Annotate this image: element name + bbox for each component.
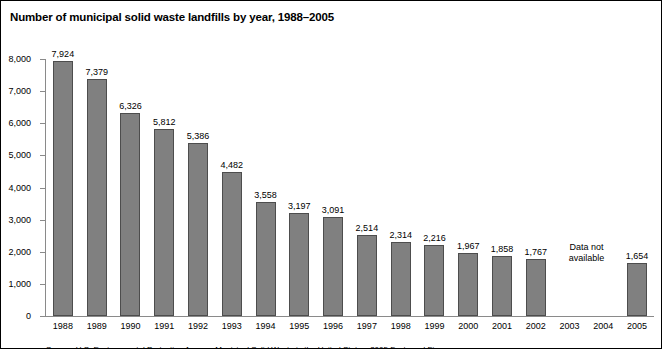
y-axis-tick [40, 123, 45, 124]
bar[interactable] [458, 253, 478, 316]
bar-value-label: 5,386 [187, 131, 210, 141]
x-axis-tick-label: 1997 [357, 321, 377, 331]
bar-value-label: 3,091 [322, 205, 345, 215]
y-axis-tick-label: 4,000 [8, 183, 31, 193]
bar-slot: 3,197 [282, 59, 316, 316]
x-axis-tick-label: 2005 [627, 321, 647, 331]
x-axis-tick-label: 1996 [323, 321, 343, 331]
x-axis-tick-label: 1993 [222, 321, 242, 331]
bar-slot: 1,767 [519, 59, 553, 316]
x-axis-tick-label: 1991 [154, 321, 174, 331]
bar[interactable] [222, 172, 242, 316]
bar[interactable] [424, 245, 444, 316]
y-axis-tick-label: 0 [26, 311, 31, 321]
bar-slot: 5,386 [181, 59, 215, 316]
bar-value-label: 1,654 [626, 251, 649, 261]
y-axis-tick-label: 8,000 [8, 54, 31, 64]
bar[interactable] [289, 213, 309, 316]
bar[interactable] [627, 263, 647, 316]
bar-value-label: 1,967 [457, 241, 480, 251]
x-axis-tick-label: 1994 [256, 321, 276, 331]
x-axis-line [45, 316, 654, 317]
y-axis-tick-label: 3,000 [8, 215, 31, 225]
bar-value-label: 1,767 [524, 247, 547, 257]
na-note-line-1: Data not [569, 242, 605, 253]
y-axis-tick-label: 1,000 [8, 279, 31, 289]
bar[interactable] [492, 256, 512, 316]
bar-value-label: 4,482 [220, 160, 243, 170]
x-axis-tick-label: 1992 [188, 321, 208, 331]
y-axis-tick [40, 316, 45, 317]
y-axis-tick [40, 284, 45, 285]
bar-slot: 5,812 [147, 59, 181, 316]
figure-footnote: Source: U.S. Environmental Protection Ag… [46, 345, 646, 349]
x-axis-tick-label: 1988 [53, 321, 73, 331]
y-axis-tick-label: 6,000 [8, 118, 31, 128]
chart-title: Number of municipal solid waste landfill… [10, 11, 334, 23]
x-axis-tick-label: 2004 [593, 321, 613, 331]
plot-area: 8,0007,0006,0005,0004,0003,0002,0001,000… [46, 59, 654, 316]
bar[interactable] [526, 259, 546, 316]
y-axis-tick [40, 59, 45, 60]
bar-slot: 2,514 [350, 59, 384, 316]
y-axis-tick-label: 5,000 [8, 150, 31, 160]
bar-slot: 2,314 [384, 59, 418, 316]
bar-value-label: 3,558 [254, 190, 277, 200]
bar[interactable] [323, 217, 343, 316]
bar-slot: 6,326 [114, 59, 148, 316]
na-note-line-2: available [569, 253, 605, 264]
bar[interactable] [357, 235, 377, 316]
bar-value-label: 7,924 [52, 49, 75, 59]
bar-slot [553, 59, 587, 316]
y-axis-tick [40, 155, 45, 156]
bar[interactable] [154, 129, 174, 316]
bar-value-label: 7,379 [85, 67, 108, 77]
x-axis-tick-label: 1990 [120, 321, 140, 331]
bar[interactable] [120, 113, 140, 316]
y-axis-tick [40, 188, 45, 189]
bar[interactable] [87, 79, 107, 316]
data-not-available-note: Data notavailable [569, 242, 605, 264]
bar-value-label: 2,314 [389, 230, 412, 240]
x-axis-tick-label: 2002 [526, 321, 546, 331]
bar-slot: 1,858 [485, 59, 519, 316]
bar-value-label: 3,197 [288, 201, 311, 211]
y-axis-tick [40, 91, 45, 92]
bar-value-label: 5,812 [153, 117, 176, 127]
bar-slot: 3,558 [249, 59, 283, 316]
bar-slot: 1,967 [451, 59, 485, 316]
bar[interactable] [188, 143, 208, 316]
bar[interactable] [391, 242, 411, 316]
bar-value-label: 6,326 [119, 101, 142, 111]
bar-value-label: 1,858 [491, 244, 514, 254]
x-axis-tick-label: 2003 [560, 321, 580, 331]
bar[interactable] [53, 61, 73, 316]
bar[interactable] [256, 202, 276, 316]
bar-slot: 4,482 [215, 59, 249, 316]
y-axis-tick-label: 7,000 [8, 86, 31, 96]
x-axis-tick-label: 1998 [391, 321, 411, 331]
y-axis-tick [40, 220, 45, 221]
x-axis-tick-label: 1989 [87, 321, 107, 331]
x-axis-tick-label: 2001 [492, 321, 512, 331]
y-axis-tick-label: 2,000 [8, 247, 31, 257]
bar-slot: 1,654 [620, 59, 654, 316]
x-axis-tick-label: 1995 [289, 321, 309, 331]
bar-slot: 7,924 [46, 59, 80, 316]
bar-value-label: 2,216 [423, 233, 446, 243]
bar-slot: 3,091 [316, 59, 350, 316]
bar-value-label: 2,514 [356, 223, 379, 233]
bar-slot [586, 59, 620, 316]
x-axis-tick-label: 1999 [424, 321, 444, 331]
bar-slot: 2,216 [418, 59, 452, 316]
y-axis-tick [40, 252, 45, 253]
bar-slot: 7,379 [80, 59, 114, 316]
x-axis-tick-label: 2000 [458, 321, 478, 331]
chart-figure: Number of municipal solid waste landfill… [0, 0, 662, 349]
